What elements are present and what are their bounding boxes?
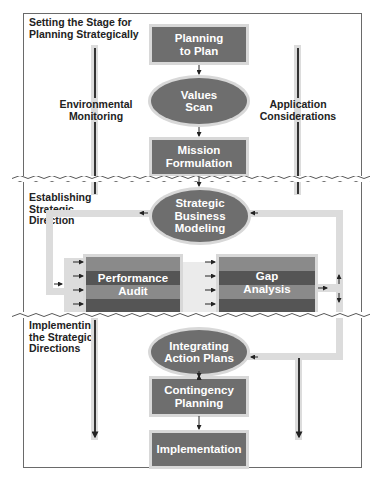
node-gap-analysis[interactable]: Gap Analysis: [219, 257, 315, 313]
audit-feed-channel: [64, 258, 86, 318]
left-monitoring-line-top: [94, 48, 96, 98]
stripe: [86, 299, 180, 313]
gap-output-channel: [316, 284, 338, 292]
section-label-implementing: Implementing the Strategic Directions: [29, 320, 97, 355]
node-strategic-business-modeling[interactable]: Strategic Business Modeling: [152, 190, 248, 242]
side-label-application-considerations: Application Considerations: [258, 98, 338, 122]
loop-channel-top-right: [247, 210, 343, 217]
section-label-setting-stage: Setting the Stage for Planning Strategic…: [29, 17, 139, 40]
node-mission-formulation[interactable]: Mission Formulation: [152, 140, 246, 174]
loop-channel-left-vertical: [46, 210, 53, 295]
left-monitoring-line-bottom: [94, 122, 96, 194]
right-considerations-line-bottom: [297, 122, 299, 194]
right-implementation-line: [298, 358, 300, 436]
stripe: [219, 299, 315, 313]
right-considerations-line-top: [297, 48, 299, 98]
side-label-environmental-monitoring: Environmental Monitoring: [56, 98, 136, 122]
performance-audit-label: Performance Audit: [86, 272, 180, 298]
node-integrating-action-plans[interactable]: Integrating Action Plans: [151, 330, 247, 374]
node-contingency-planning[interactable]: Contingency Planning: [152, 379, 246, 414]
gap-analysis-label: Gap Analysis: [219, 270, 315, 296]
node-performance-audit[interactable]: Performance Audit: [86, 257, 180, 313]
left-implementation-line: [94, 320, 96, 436]
loop-channel-top-left: [46, 210, 151, 217]
audit-to-gap-channel: [182, 262, 218, 314]
node-planning-to-plan[interactable]: Planning to Plan: [152, 27, 246, 62]
stripe: [219, 257, 315, 271]
node-values-scan[interactable]: Values Scan: [151, 78, 247, 124]
stripe: [86, 257, 180, 271]
node-implementation[interactable]: Implementation: [152, 433, 246, 466]
